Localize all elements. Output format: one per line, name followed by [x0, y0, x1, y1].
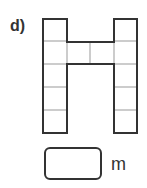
answer-input-box[interactable] [44, 147, 102, 180]
grid-lines [43, 41, 137, 110]
unit-label: m [111, 154, 126, 175]
h-shape-outline [43, 19, 137, 133]
